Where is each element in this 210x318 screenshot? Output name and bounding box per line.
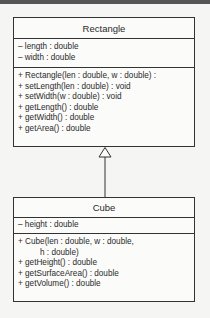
- attributes-section: – height : double: [14, 218, 194, 234]
- attribute: – height : double: [18, 220, 194, 231]
- operation-continuation: h : double): [18, 248, 194, 259]
- operation: + getVolume() : double: [18, 279, 194, 290]
- operations-section: + Cube(len : double, w : double, h : dou…: [14, 234, 194, 292]
- operation: + getHeight() : double: [18, 258, 194, 269]
- operation: + getSurfaceArea() : double: [18, 269, 194, 280]
- class-box-cube: Cube – height : double + Cube(len : doub…: [13, 197, 195, 302]
- operation: + Cube(len : double, w : double,: [18, 237, 194, 248]
- class-name: Cube: [14, 198, 194, 218]
- hollow-triangle-icon: [99, 148, 111, 158]
